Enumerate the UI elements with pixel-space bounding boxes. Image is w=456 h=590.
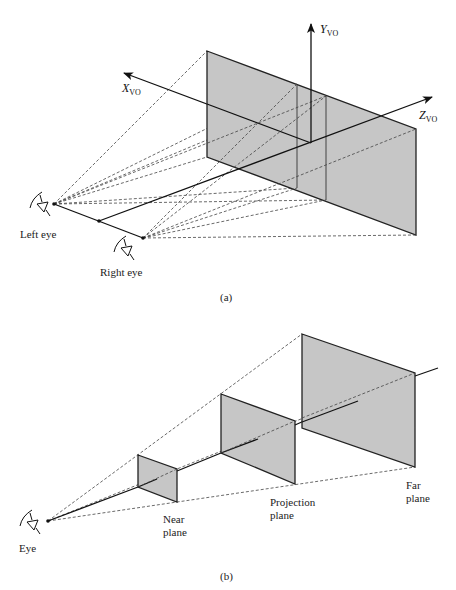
view-axis-segment-1 <box>48 487 138 521</box>
right-eye-label: Right eye <box>100 266 143 278</box>
near-plane-label-1: Near <box>163 513 185 525</box>
far-plane-label-2: plane <box>406 492 430 504</box>
near-plane-label-2: plane <box>163 526 187 538</box>
eye-midpoint <box>97 219 101 223</box>
view-axis-segment-2 <box>177 453 221 471</box>
caption-a: (a) <box>220 291 233 304</box>
stereo-view-volume-figure: XVO YVO ZVO Left eye Right eye (a) <box>0 0 456 590</box>
projection-plane-label-1: Projection <box>270 496 316 508</box>
eye-icon <box>20 510 40 534</box>
eye-label: Eye <box>19 542 36 554</box>
figure-a: XVO YVO ZVO Left eye Right eye (a) <box>20 22 437 304</box>
far-plane <box>302 334 415 467</box>
left-eye-point <box>52 202 56 206</box>
left-eye-label: Left eye <box>20 228 56 240</box>
right-eye-icon <box>114 236 134 260</box>
x-axis-label: XVO <box>121 81 141 97</box>
z-axis-label: ZVO <box>419 108 437 124</box>
far-plane-label-1: Far <box>406 479 421 491</box>
figure-b: Eye Near plane Projection plane Far plan… <box>19 334 438 583</box>
right-eye-point <box>141 236 145 240</box>
eye-point <box>46 519 50 523</box>
projection-plane-label-2: plane <box>270 509 294 521</box>
left-eye-icon <box>30 192 50 216</box>
view-axis-exit <box>415 368 438 376</box>
caption-b: (b) <box>220 570 233 583</box>
y-axis-label: YVO <box>320 22 338 38</box>
near-plane <box>138 455 177 502</box>
